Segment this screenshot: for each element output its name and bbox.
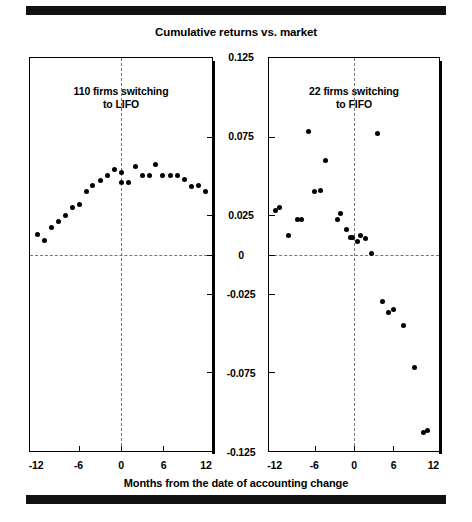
data-point: [386, 310, 391, 315]
data-point: [299, 217, 304, 222]
data-point: [42, 238, 47, 243]
y-axis-tick: [269, 294, 275, 295]
x-axis-tick-labels-fifo: -12-60612: [268, 459, 440, 475]
data-point: [168, 173, 173, 178]
data-point: [312, 189, 317, 194]
y-axis-tick: [207, 372, 213, 373]
x-axis-tick: [315, 446, 316, 452]
x-axis-tick-label: 12: [200, 459, 211, 471]
data-point: [77, 202, 82, 207]
data-point: [98, 178, 103, 183]
data-point: [412, 365, 417, 370]
data-point: [153, 162, 158, 167]
data-point: [369, 251, 374, 256]
x-axis-tick: [163, 446, 164, 452]
data-point: [105, 173, 110, 178]
y-axis-tick: [269, 137, 275, 138]
data-point: [126, 180, 131, 185]
data-point: [391, 307, 396, 312]
y-axis-tick-label: 0.125: [214, 51, 268, 63]
plot-area-lifo: 110 firms switching to LIFO: [30, 58, 212, 451]
panel-fifo: 22 firms switching to FIFO: [268, 57, 440, 452]
x-axis-tick-label: -12: [29, 459, 44, 471]
x-axis-tick: [121, 446, 122, 452]
y-axis-tick-label: -0.025: [214, 288, 268, 300]
data-point: [344, 227, 349, 232]
data-point: [175, 173, 180, 178]
y-axis-tick: [207, 255, 213, 256]
x-axis-tick-label: 0: [351, 459, 357, 471]
data-point: [140, 173, 145, 178]
x-axis-tick-label: -6: [74, 459, 83, 471]
data-point: [160, 173, 165, 178]
data-point: [56, 219, 61, 224]
y-axis-tick-label: 0: [214, 249, 268, 261]
data-point: [380, 299, 385, 304]
y-axis-tick: [269, 215, 275, 216]
figure-container: Cumulative returns vs. market 110 firms …: [0, 0, 472, 522]
data-point: [335, 217, 340, 222]
chart-title: Cumulative returns vs. market: [0, 26, 472, 38]
data-point: [323, 158, 328, 163]
y-axis-tick: [207, 215, 213, 216]
x-axis-title: Months from the date of accounting chang…: [0, 477, 472, 489]
data-point: [318, 188, 323, 193]
data-point: [182, 177, 187, 182]
x-axis-tick: [393, 446, 394, 452]
x-axis-tick-label: -6: [310, 459, 319, 471]
y-axis-tick-label: -0.075: [214, 367, 268, 379]
data-point: [350, 235, 355, 240]
data-point: [112, 167, 117, 172]
y-axis-tick-labels: 0.1250.0750.0250-0.025-0.075-0.125: [214, 57, 268, 452]
data-point: [425, 428, 430, 433]
plot-area-fifo: 22 firms switching to FIFO: [269, 58, 439, 451]
data-point: [49, 225, 54, 230]
x-axis-tick-label: 12: [428, 459, 439, 471]
data-point: [277, 205, 282, 210]
data-point: [90, 183, 95, 188]
data-point: [401, 323, 406, 328]
data-point: [375, 131, 380, 136]
data-point: [189, 184, 194, 189]
panel-lifo: 110 firms switching to LIFO: [29, 57, 213, 452]
data-point: [119, 170, 124, 175]
data-point: [70, 205, 75, 210]
x-axis-tick: [79, 446, 80, 452]
data-point: [35, 232, 40, 237]
data-point: [133, 164, 138, 169]
data-point: [147, 173, 152, 178]
y-axis-tick: [207, 137, 213, 138]
y-axis-tick-label: 0.075: [214, 130, 268, 142]
y-axis-tick: [269, 255, 275, 256]
data-point: [306, 129, 311, 134]
y-axis-tick: [269, 372, 275, 373]
data-point: [355, 239, 360, 244]
data-point: [363, 236, 368, 241]
zero-reference-line-vertical: [354, 58, 355, 451]
x-axis-tick-label: 6: [391, 459, 397, 471]
zero-reference-line-vertical: [121, 58, 122, 451]
data-point: [119, 180, 124, 185]
top-rule: [26, 6, 446, 15]
y-axis-tick: [207, 294, 213, 295]
data-point: [196, 183, 201, 188]
x-axis-tick-label: 6: [161, 459, 167, 471]
x-axis-tick: [354, 446, 355, 452]
y-axis-tick-label: -0.125: [214, 446, 268, 458]
data-point: [286, 233, 291, 238]
data-point: [84, 189, 89, 194]
bottom-rule: [26, 495, 446, 504]
data-point: [338, 211, 343, 216]
data-point: [63, 213, 68, 218]
x-axis-tick-labels-lifo: -12-60612: [29, 459, 213, 475]
data-point: [203, 189, 208, 194]
x-axis-tick-label: 0: [118, 459, 124, 471]
y-axis-tick-label: 0.025: [214, 209, 268, 221]
x-axis-tick-label: -12: [267, 459, 282, 471]
